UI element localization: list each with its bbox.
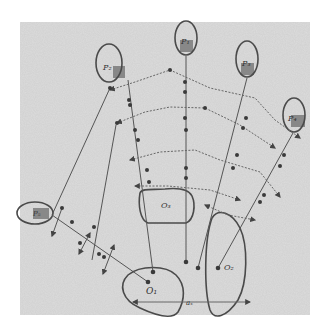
axis-label: aₓ — [186, 299, 193, 307]
label-p3: P₃ — [241, 59, 251, 68]
label-o2: O₂ — [224, 263, 234, 272]
label-p1: P₁ — [180, 37, 190, 46]
label-o3: O₃ — [161, 201, 171, 210]
label-p4: P₄ — [287, 114, 297, 123]
diagram-canvas: P₁ P₂ P₃ P₄ P₅ — [0, 0, 326, 330]
label-o1: O₁ — [146, 286, 157, 296]
label-p2: P₂ — [102, 63, 112, 72]
label-p5: P₅ — [32, 210, 41, 218]
